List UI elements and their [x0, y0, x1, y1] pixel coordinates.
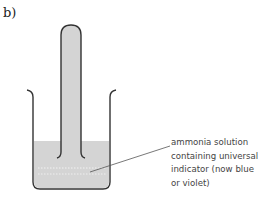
annotation-text: ammonia solution containing universal in…: [171, 136, 258, 190]
annotation-line: ammonia solution: [171, 136, 258, 150]
annotation-line: indicator (now blue: [171, 163, 258, 177]
annotation-line: containing universal: [171, 150, 258, 164]
annotation-line: or violet): [171, 177, 258, 191]
